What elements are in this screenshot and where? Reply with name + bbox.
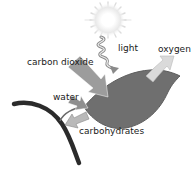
carbohydrates-label: carbohydrates (79, 127, 144, 136)
oxygen-label: oxygen (158, 45, 191, 54)
branch (14, 103, 86, 163)
carbon-dioxide-label: carbon dioxide (27, 58, 93, 67)
sun-icon (85, 2, 131, 38)
light-wave-arrow (98, 37, 119, 74)
photosynthesis-diagram: light oxygen carbon dioxide water carboh… (0, 0, 195, 172)
light-label: light (118, 44, 138, 53)
water-label: water (53, 93, 79, 102)
diagram-graphic (0, 0, 195, 172)
